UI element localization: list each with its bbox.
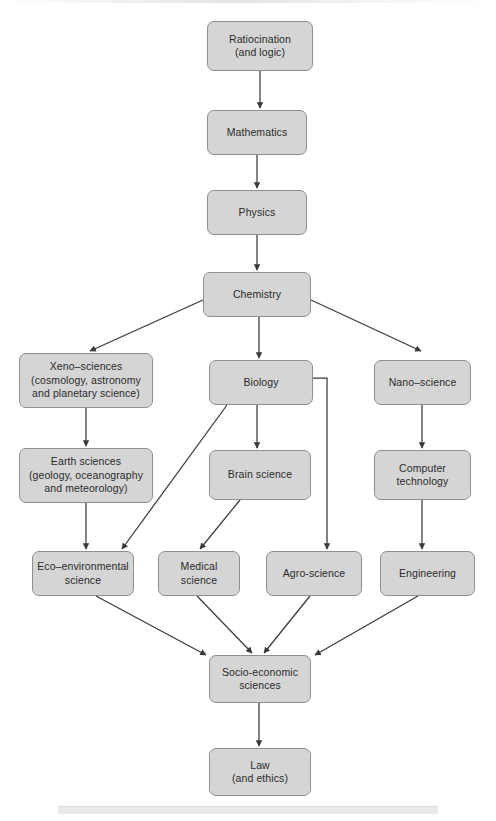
node-label: Engineering xyxy=(385,567,470,580)
edge-engineering-socio xyxy=(315,596,418,655)
science-hierarchy-diagram: Ratiocination(and logic) Mathematics Phy… xyxy=(0,0,496,821)
node-label: Law(and ethics) xyxy=(214,759,306,786)
node-engineering[interactable]: Engineering xyxy=(380,551,475,596)
edge-eco-socio xyxy=(96,596,206,655)
edge-medical-socio xyxy=(197,596,252,653)
node-socio-economic-sciences[interactable]: Socio-economicsciences xyxy=(209,655,311,703)
node-label: Xeno–sciences(cosmology, astronomyand pl… xyxy=(24,360,148,400)
node-label: Ratiocination(and logic) xyxy=(212,33,308,60)
edge-chemistry-nano xyxy=(311,300,421,351)
node-physics[interactable]: Physics xyxy=(207,190,307,235)
node-mathematics[interactable]: Mathematics xyxy=(207,110,307,155)
node-chemistry[interactable]: Chemistry xyxy=(203,272,311,317)
node-nano-science[interactable]: Nano–science xyxy=(374,360,471,405)
node-label: Mathematics xyxy=(212,126,302,139)
node-label: Eco–environmentalscience xyxy=(37,560,129,587)
node-label: Computertechnology xyxy=(379,462,466,489)
node-label: Medicalscience xyxy=(163,560,235,587)
node-label: Agro-science xyxy=(271,567,357,580)
node-label: Brain science xyxy=(214,468,306,481)
edge-chemistry-xeno xyxy=(90,300,203,351)
node-law[interactable]: Law(and ethics) xyxy=(209,748,311,796)
node-computer-technology[interactable]: Computertechnology xyxy=(374,450,471,500)
node-eco-environmental-science[interactable]: Eco–environmentalscience xyxy=(32,551,134,596)
page-bottom-band xyxy=(58,806,438,814)
node-label: Biology xyxy=(214,376,308,389)
edge-brain-medical xyxy=(200,500,240,549)
node-ratiocination[interactable]: Ratiocination(and logic) xyxy=(207,21,313,71)
node-xeno-sciences[interactable]: Xeno–sciences(cosmology, astronomyand pl… xyxy=(19,353,153,408)
node-label: Socio-economicsciences xyxy=(214,666,306,693)
node-earth-sciences[interactable]: Earth sciences(geology, oceanographyand … xyxy=(19,448,153,503)
node-label: Earth sciences(geology, oceanographyand … xyxy=(24,455,148,495)
edge-agro-socio xyxy=(264,596,310,653)
node-label: Physics xyxy=(212,206,302,219)
node-label: Chemistry xyxy=(208,288,306,301)
node-agro-science[interactable]: Agro-science xyxy=(266,551,362,596)
node-brain-science[interactable]: Brain science xyxy=(209,450,311,500)
node-label: Nano–science xyxy=(379,376,466,389)
edge-biology-agro xyxy=(313,378,327,549)
node-medical-science[interactable]: Medicalscience xyxy=(158,551,240,596)
node-biology[interactable]: Biology xyxy=(209,360,313,405)
